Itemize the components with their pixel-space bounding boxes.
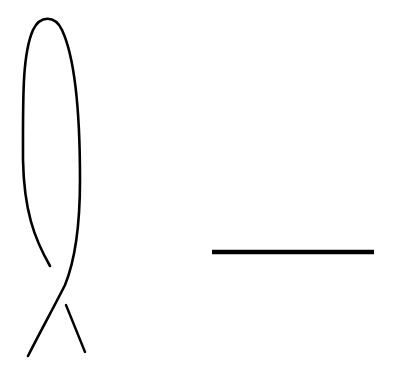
knot-diagram — [0, 0, 399, 366]
kinked-strand — [23, 19, 85, 356]
loop-over-strand — [23, 19, 80, 356]
loop-under-strand — [66, 305, 85, 352]
